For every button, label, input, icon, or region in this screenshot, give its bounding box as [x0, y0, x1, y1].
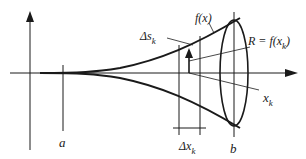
label-radius: R = f(xk) [247, 34, 290, 51]
label-delta-x: Δxk [178, 139, 196, 156]
y-axis-arrowhead-icon [26, 11, 34, 22]
upper-curve-fx [40, 18, 240, 73]
label-a: a [59, 135, 66, 150]
radius-arrowhead-icon [185, 48, 193, 58]
label-fx: f(x) [195, 11, 212, 25]
lower-curve [40, 73, 240, 128]
label-xk: xk [262, 90, 274, 108]
radius-leader-line [189, 47, 250, 61]
label-delta-s: Δsk [139, 29, 157, 46]
label-b: b [230, 141, 237, 156]
delta-s-leader-line [167, 38, 193, 45]
surface-of-revolution-diagram: a b f(x) Δsk R = f(xk) xk Δxk [0, 0, 306, 159]
x-axis-arrowhead-icon [285, 69, 298, 77]
